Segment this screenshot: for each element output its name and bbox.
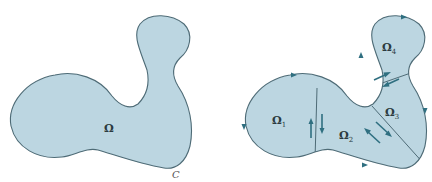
region-shape — [10, 16, 191, 169]
diagram-canvas: Ω C — [0, 0, 432, 182]
boundary-label: C — [172, 169, 180, 180]
region-label: Ω — [104, 122, 114, 135]
boundary-arrow-icon — [362, 163, 368, 168]
region-shape-subdivided — [245, 16, 426, 169]
boundary-arrow-icon — [359, 52, 364, 58]
subdivided-region: Ω1 Ω2 Ω3 Ω4 — [242, 15, 428, 169]
region-omega: Ω C — [10, 16, 191, 180]
